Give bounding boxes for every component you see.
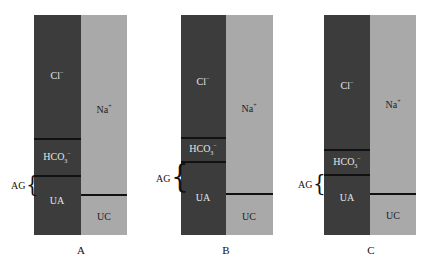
cl-label: Cl− [341, 79, 354, 90]
uc-label: UC [386, 210, 400, 221]
na-label: Na+ [385, 98, 400, 109]
ua-label: UA [340, 192, 354, 203]
cl-hco3-divider [324, 149, 370, 151]
na-uc-divider [370, 193, 416, 195]
hco3-ua-divider [324, 174, 370, 176]
panel-caption: C [367, 244, 374, 256]
hco3-label: HCO3− [333, 155, 361, 168]
ag-label: AG [298, 179, 312, 190]
cation-column: Na+ UC [370, 15, 416, 235]
ag-brace-icon: { [313, 172, 326, 194]
anion-column: Cl− HCO3− UA [324, 15, 370, 235]
panel-c: Cl− HCO3− UA Na+ UC AG { C [0, 0, 425, 266]
